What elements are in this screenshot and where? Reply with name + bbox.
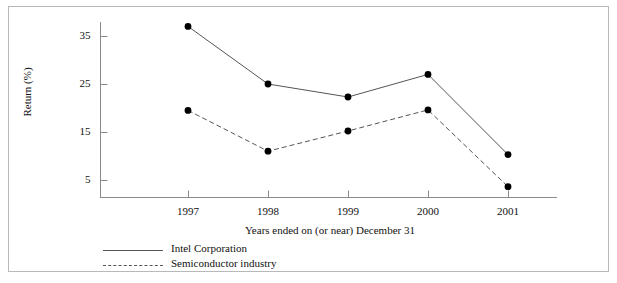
legend-swatch-dashed-line — [103, 265, 163, 266]
data-point-marker — [505, 151, 512, 158]
line-chart — [0, 0, 617, 283]
data-point-marker — [265, 81, 272, 88]
data-point-marker — [185, 23, 192, 30]
data-point-marker — [425, 71, 432, 78]
y-axis-ticks — [101, 37, 108, 181]
series-markers-intel-corporation — [185, 23, 512, 158]
x-tick-label: 1997 — [158, 205, 218, 217]
series-line-semiconductor-industry — [188, 110, 508, 187]
series-line-intel-corporation — [188, 26, 508, 154]
y-tick-label: 25 — [61, 77, 91, 89]
x-tick-label: 2000 — [398, 205, 458, 217]
chart-axes — [100, 22, 557, 198]
data-point-marker — [505, 183, 512, 190]
data-point-marker — [185, 107, 192, 114]
y-tick-label: 15 — [61, 125, 91, 137]
legend-label: Intel Corporation — [171, 242, 247, 254]
data-point-marker — [265, 148, 272, 155]
data-point-marker — [345, 94, 352, 101]
x-axis-ticks — [189, 191, 509, 198]
x-tick-label: 1998 — [238, 205, 298, 217]
data-point-marker — [345, 128, 352, 135]
legend-swatch-solid-line — [103, 250, 163, 251]
x-tick-label: 2001 — [478, 205, 538, 217]
y-tick-label: 35 — [61, 29, 91, 41]
y-axis-title: Return (%) — [21, 47, 33, 137]
x-axis-title: Years ended on (or near) December 31 — [100, 224, 560, 236]
legend-label: Semiconductor industry — [171, 257, 276, 269]
y-tick-label: 5 — [61, 173, 91, 185]
series-markers-semiconductor-industry — [185, 107, 512, 191]
data-point-marker — [425, 107, 432, 114]
x-tick-label: 1999 — [318, 205, 378, 217]
